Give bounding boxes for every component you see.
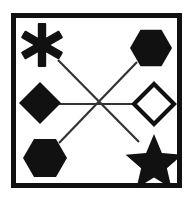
figure-container: Geometric shapes connected by crossing l… (0, 0, 193, 201)
shape-diagram (0, 0, 193, 201)
